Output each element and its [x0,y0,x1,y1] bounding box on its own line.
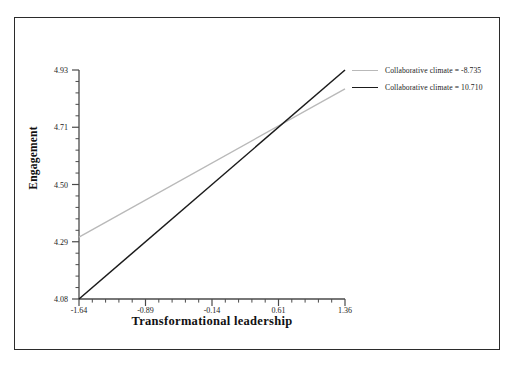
y-axis-title: Engagement [27,108,39,208]
legend-swatch-icon-series-1 [352,87,378,88]
plot-area: 4.93 4.71 4.50 4.29 4.08 -1.64 -0.89 -0.… [0,0,515,370]
chart-legend: Collaborative climate = -8.735 Collabora… [352,62,502,96]
legend-swatch-icon-series-0 [352,70,378,71]
legend-label-1: Collaborative climate = 10.710 [385,83,483,92]
chart-screenshot: 4.93 4.71 4.50 4.29 4.08 -1.64 -0.89 -0.… [0,0,515,370]
y-tick-label-4: 4.93 [42,66,68,75]
y-tick-label-0: 4.08 [42,295,68,304]
y-tick-label-1: 4.29 [42,238,68,247]
legend-label-0: Collaborative climate = -8.735 [385,66,481,75]
series-line-collaborative-climate-high [79,70,345,299]
legend-item-1: Collaborative climate = 10.710 [352,79,502,95]
y-tick-label-3: 4.71 [42,123,68,132]
y-tick-label-2: 4.50 [42,180,68,189]
x-axis-title: Transformational leadership [79,314,345,329]
legend-item-0: Collaborative climate = -8.735 [352,62,502,78]
series-line-collaborative-climate-low [79,89,345,237]
